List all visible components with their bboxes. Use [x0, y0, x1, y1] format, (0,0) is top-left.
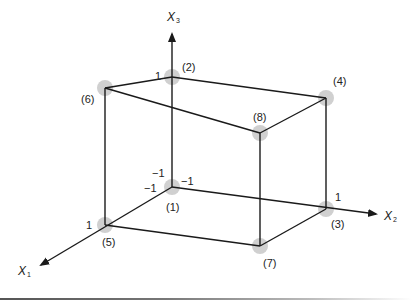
tick-x3-high: 1 — [155, 71, 161, 82]
tick-x2-low: −1 — [181, 176, 194, 187]
x1-axis — [41, 187, 172, 265]
point-label-8: (8) — [253, 112, 266, 123]
point-label-5: (5) — [102, 237, 115, 248]
axis-label-x2: X2 — [384, 210, 397, 223]
axis-label-x3: X3 — [167, 11, 180, 24]
cube-diagram: X3 X2 X1 1 1 1 −1 −1 −1 (1) (2) (3) (4) … — [0, 0, 412, 303]
tick-x2-high: 1 — [335, 192, 341, 203]
point-label-7: (7) — [263, 258, 276, 269]
point-halos — [97, 69, 334, 254]
tick-x3-low: −1 — [152, 168, 165, 179]
tick-x1-high: 1 — [86, 220, 92, 231]
point-label-1: (1) — [166, 202, 179, 213]
point-label-3: (3) — [331, 219, 344, 230]
axis-label-x1: X1 — [18, 265, 31, 278]
point-label-2: (2) — [182, 62, 195, 73]
point-label-4: (4) — [333, 76, 346, 87]
point-label-6: (6) — [81, 94, 94, 105]
cube-svg — [0, 0, 412, 303]
tick-x1-low: −1 — [144, 183, 157, 194]
bottom-rule — [0, 298, 412, 300]
x2-axis — [172, 187, 376, 214]
